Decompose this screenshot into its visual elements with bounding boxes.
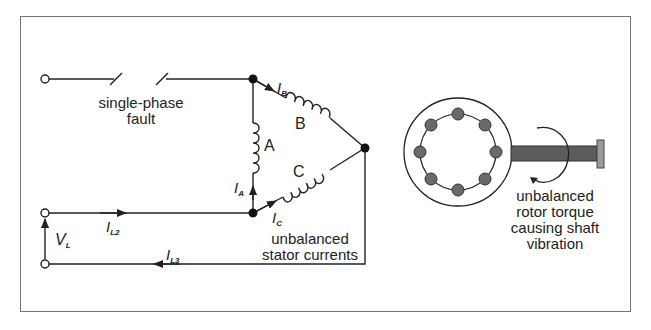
stator-currents-label: unbalanced stator currents [255,231,365,263]
shaft-end-plate [597,140,604,168]
rotor-torque-label: unbalanced rotor torque causing shaft vi… [505,188,605,252]
terminal-2 [41,209,49,217]
circuit-drawing [0,0,651,330]
node-bottom [249,209,258,218]
vl-symbol: VL [55,232,71,253]
winding-a-label: A [264,138,275,154]
node-top [249,75,258,84]
winding-a [253,79,259,213]
terminal-1 [41,75,49,83]
il2-symbol: IL2 [106,219,120,240]
shaft [511,146,597,161]
node-right [361,144,370,153]
terminal-3 [41,260,49,268]
winding-b-label: B [295,116,306,132]
ic-symbol: IC [272,210,282,231]
il3-symbol: IL3 [166,247,180,268]
line-1-with-fault [49,73,253,85]
fault-label: single-phase fault [86,95,196,127]
winding-c-label: C [293,164,305,180]
rotor [404,98,512,206]
ib-symbol: IB [277,80,287,101]
ia-symbol: IA [234,180,244,201]
winding-c [253,148,365,213]
